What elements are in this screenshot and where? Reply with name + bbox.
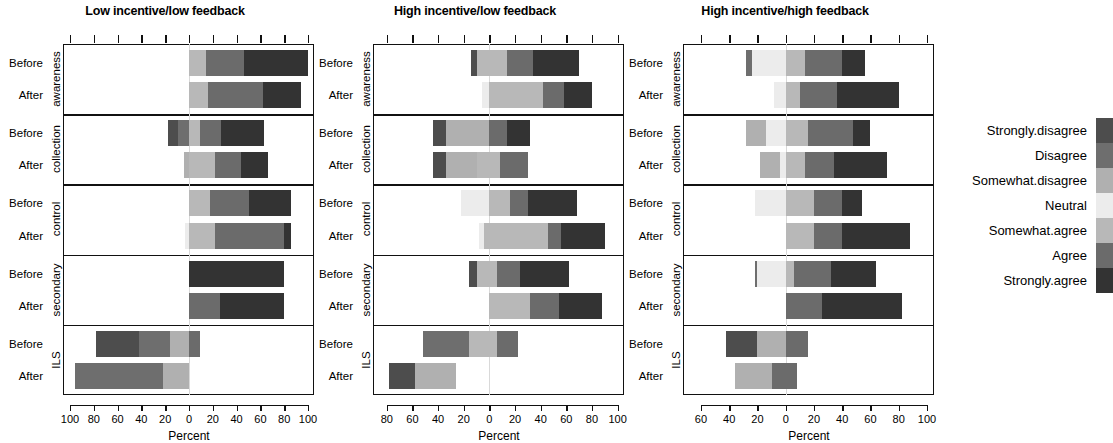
- bar-segment: [469, 331, 497, 357]
- x-tick-label: 80: [586, 413, 598, 425]
- top-tick-row: [0, 35, 330, 43]
- group-strip-label: control: [50, 202, 62, 237]
- bar-segment: [263, 82, 301, 108]
- x-tick-label: 100: [61, 413, 79, 425]
- bar-segment: [805, 50, 842, 76]
- x-tick-label: 0: [486, 413, 492, 425]
- bar-segment: [805, 152, 833, 178]
- bar-control-after: [185, 223, 291, 249]
- group-strip-awareness: awareness: [358, 44, 374, 114]
- group-strip-awareness: awareness: [668, 44, 684, 114]
- x-tick-label: 20: [509, 413, 521, 425]
- bar-segment: [461, 190, 489, 216]
- group-strip-ILS: ILS: [358, 325, 374, 395]
- row-label-before: Before: [310, 197, 353, 209]
- bar-segment: [75, 363, 163, 389]
- x-tick-label: 40: [230, 413, 242, 425]
- bar-secondary-before: [189, 261, 284, 287]
- bar-segment: [842, 50, 865, 76]
- group-strip-label: collection: [670, 125, 682, 173]
- row-label-before: Before: [310, 57, 353, 69]
- x-tick-label: 40: [535, 413, 547, 425]
- bar-segment: [168, 120, 179, 146]
- legend-item: Agree: [932, 243, 1087, 267]
- row-label-before: Before: [620, 197, 663, 209]
- bar-segment: [786, 120, 809, 146]
- bar-segment: [786, 50, 806, 76]
- bar-awareness-after: [482, 82, 592, 108]
- group-strip-label: awareness: [360, 51, 372, 107]
- row-label-after: After: [0, 89, 43, 101]
- bar-segment: [477, 261, 498, 287]
- x-tick-label: 40: [723, 413, 735, 425]
- bar-segment: [469, 261, 477, 287]
- legend: Strongly.disagreeDisagreeSomewhat.disagr…: [932, 118, 1111, 293]
- bar-control-before: [189, 190, 291, 216]
- x-tick-label: 60: [254, 413, 266, 425]
- group-separator: [668, 255, 934, 256]
- bar-segment: [215, 152, 241, 178]
- bar-segment: [842, 190, 862, 216]
- bar-segment: [746, 120, 766, 146]
- bar-awareness-after: [774, 82, 898, 108]
- bar-segment: [415, 363, 456, 389]
- bar-segment: [822, 293, 901, 319]
- bar-segment: [284, 223, 291, 249]
- bar-segment: [389, 363, 415, 389]
- bar-secondary-before: [755, 261, 876, 287]
- bar-segment: [507, 50, 533, 76]
- bar-segment: [489, 293, 530, 319]
- bar-segment: [189, 331, 200, 357]
- bar-segment: [837, 82, 899, 108]
- x-tick-label: 40: [135, 413, 147, 425]
- panel-title: Low incentive/low feedback: [0, 4, 330, 18]
- bar-segment: [842, 223, 910, 249]
- bar-segment: [249, 190, 292, 216]
- bar-awareness-before: [746, 50, 865, 76]
- group-separator: [668, 184, 934, 185]
- group-separator: [358, 114, 624, 115]
- legend-item: Disagree: [932, 143, 1087, 167]
- group-separator: [668, 325, 934, 326]
- row-label-after: After: [620, 89, 663, 101]
- bar-collection-before: [168, 120, 264, 146]
- bar-segment: [766, 120, 786, 146]
- bar-segment: [786, 261, 794, 287]
- legend-label: Strongly.disagree: [987, 123, 1087, 138]
- bar-segment: [433, 152, 446, 178]
- row-label-before: Before: [0, 127, 43, 139]
- bar-segment: [794, 261, 831, 287]
- bar-segment: [786, 152, 806, 178]
- legend-label: Neutral: [1045, 198, 1087, 213]
- bar-ILS-after: [75, 363, 189, 389]
- bar-segment: [814, 190, 842, 216]
- group-strip-label: control: [670, 202, 682, 237]
- bar-segment: [757, 331, 785, 357]
- bar-segment: [206, 50, 244, 76]
- bar-segment: [808, 120, 853, 146]
- bar-secondary-after: [489, 293, 602, 319]
- group-separator: [358, 325, 624, 326]
- bar-segment: [774, 82, 785, 108]
- x-tick-label: 60: [406, 413, 418, 425]
- panel-title: High incentive/low feedback: [310, 4, 640, 18]
- bar-segment: [786, 293, 823, 319]
- bar-collection-after: [184, 152, 267, 178]
- panel-2: High incentive/low feedbackawarenessBefo…: [310, 0, 640, 443]
- bar-segment: [786, 223, 814, 249]
- bar-segment: [200, 120, 221, 146]
- row-label-after: After: [620, 159, 663, 171]
- bar-segment: [561, 223, 605, 249]
- group-separator: [668, 114, 934, 115]
- legend-swatch: [1096, 143, 1113, 168]
- bar-ILS-after: [735, 363, 797, 389]
- x-axis-title: Percent: [788, 429, 829, 443]
- bar-segment: [489, 190, 510, 216]
- bar-segment: [559, 293, 603, 319]
- legend-label: Somewhat.agree: [989, 223, 1087, 238]
- bar-segment: [189, 120, 200, 146]
- bar-segment: [533, 50, 579, 76]
- bar-segment: [489, 120, 507, 146]
- row-label-after: After: [310, 370, 353, 382]
- row-label-after: After: [310, 300, 353, 312]
